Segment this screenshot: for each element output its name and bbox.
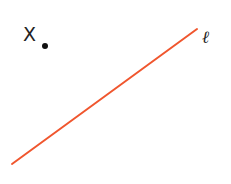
- diagram-canvas: X ℓ: [0, 0, 231, 184]
- line-label-l: ℓ: [202, 29, 209, 46]
- point-label-x: X: [23, 25, 36, 44]
- point-x: [42, 43, 48, 49]
- line-l: [12, 29, 197, 164]
